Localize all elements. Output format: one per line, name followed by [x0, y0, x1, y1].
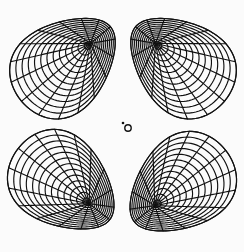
lobe-lower-right: [130, 131, 237, 231]
four-lobe-wireframe-figure: [0, 0, 244, 252]
lobe-lower-left: [7, 129, 114, 229]
center-dot-icon: [122, 122, 125, 125]
lobes-group: [7, 18, 236, 231]
lobe-upper-left: [10, 18, 116, 119]
diagram-canvas: [0, 0, 244, 252]
lobe-upper-right: [131, 18, 237, 119]
origin-ring-icon: [125, 125, 131, 131]
center-marker: [122, 122, 132, 132]
